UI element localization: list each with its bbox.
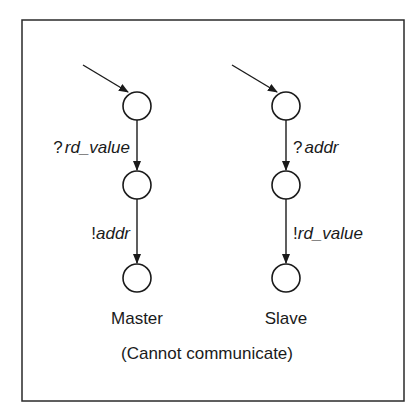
master-transition-1-label: ?rd_value	[53, 138, 130, 157]
master-state-1	[123, 92, 151, 120]
state-machine-diagram: ?rd_value !addr Master ?addr !rd_value S…	[0, 0, 418, 420]
slave-state-3	[272, 264, 300, 292]
master-state-2	[123, 171, 151, 199]
slave-transition-2-label: !rd_value	[293, 224, 363, 243]
slave-initial-arrow	[232, 65, 277, 92]
diagram-caption: (Cannot communicate)	[121, 344, 293, 363]
master-state-3	[123, 264, 151, 292]
slave-transition-1-label: ?addr	[293, 138, 340, 157]
master-transition-2-label: !addr	[91, 224, 131, 243]
slave-state-2	[272, 171, 300, 199]
slave-state-1	[272, 92, 300, 120]
master-initial-arrow	[83, 65, 128, 92]
slave-machine: ?addr !rd_value Slave	[232, 65, 363, 328]
master-machine: ?rd_value !addr Master	[53, 65, 163, 328]
slave-label: Slave	[265, 309, 308, 328]
master-label: Master	[111, 309, 163, 328]
